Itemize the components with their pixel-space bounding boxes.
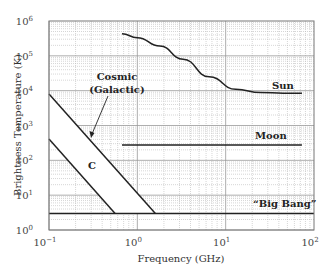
x-tick-label: 101 [213, 236, 230, 248]
x-tick-label: 100 [125, 236, 142, 248]
y-tick-label: 100 [16, 224, 33, 236]
cosmic-label-line1: Cosmic [97, 71, 138, 82]
c-band-label: C [88, 160, 96, 171]
chart: 10−1100101102 100101102103104105106 Freq… [0, 0, 335, 276]
y-tick-label: 106 [16, 15, 34, 27]
x-axis-ticks: 10−1100101102 [33, 236, 318, 248]
y-axis-label: Brightness Temperature (K) [12, 54, 23, 196]
big-bang-label: “Big Bang” [253, 198, 316, 209]
x-axis-label: Frequency (GHz) [137, 253, 224, 264]
x-tick-label: 10−1 [33, 236, 56, 248]
data-series [49, 34, 314, 214]
sun-label: Sun [272, 80, 294, 91]
moon-label: Moon [255, 130, 287, 141]
cosmic-label-line2: (Galactic) [89, 84, 144, 95]
cosmic-arrow-icon [90, 96, 109, 138]
x-tick-label: 102 [301, 236, 318, 248]
